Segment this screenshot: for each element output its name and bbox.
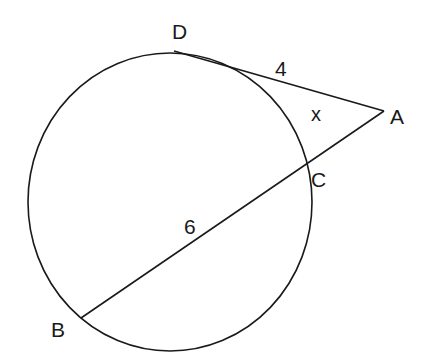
point-label-c: C [311,168,326,191]
segment-label-ca: x [311,103,321,125]
segment-label-bc: 6 [184,215,196,238]
point-label-a: A [390,105,404,128]
geometry-diagram: D A C B 4 x 6 [0,0,427,361]
point-label-b: B [51,318,65,341]
point-label-d: D [172,20,187,43]
secant-segment-ab [81,111,384,318]
segment-label-ad: 4 [275,57,287,80]
circle [28,53,312,351]
